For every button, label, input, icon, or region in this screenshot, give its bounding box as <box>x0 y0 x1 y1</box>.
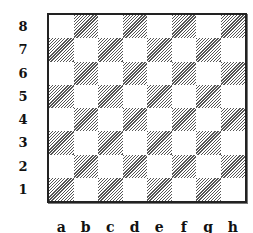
square-h1 <box>221 178 246 201</box>
square-c4 <box>98 108 123 131</box>
square-c6 <box>98 62 123 85</box>
file-label-e: e <box>147 218 172 233</box>
square-a3 <box>49 131 74 154</box>
square-c7 <box>98 38 123 61</box>
square-c3 <box>98 131 123 154</box>
square-b5 <box>74 85 99 108</box>
square-c5 <box>98 85 123 108</box>
rank-label-6: 6 <box>14 62 32 85</box>
square-g8 <box>196 15 221 38</box>
square-e8 <box>147 15 172 38</box>
square-b1 <box>74 178 99 201</box>
square-f5 <box>172 85 197 108</box>
rank-label-4: 4 <box>14 108 32 131</box>
square-e7 <box>147 38 172 61</box>
square-a6 <box>49 62 74 85</box>
square-a7 <box>49 38 74 61</box>
square-e6 <box>147 62 172 85</box>
square-h7 <box>221 38 246 61</box>
square-a2 <box>49 155 74 178</box>
square-f3 <box>172 131 197 154</box>
square-a1 <box>49 178 74 201</box>
square-f6 <box>172 62 197 85</box>
square-h2 <box>221 155 246 178</box>
rank-label-5: 5 <box>14 85 32 108</box>
square-d5 <box>123 85 148 108</box>
square-d6 <box>123 62 148 85</box>
square-b4 <box>74 108 99 131</box>
square-h8 <box>221 15 246 38</box>
file-label-g: g <box>196 218 221 233</box>
square-h6 <box>221 62 246 85</box>
square-g6 <box>196 62 221 85</box>
square-e2 <box>147 155 172 178</box>
square-b7 <box>74 38 99 61</box>
square-b2 <box>74 155 99 178</box>
file-label-d: d <box>123 218 148 233</box>
square-d8 <box>123 15 148 38</box>
square-h3 <box>221 131 246 154</box>
square-d2 <box>123 155 148 178</box>
rank-label-3: 3 <box>14 131 32 154</box>
file-labels: a b c d e f g h <box>49 218 245 233</box>
rank-labels: 8 7 6 5 4 3 2 1 <box>14 15 32 201</box>
square-e1 <box>147 178 172 201</box>
square-b3 <box>74 131 99 154</box>
square-g3 <box>196 131 221 154</box>
file-label-b: b <box>74 218 99 233</box>
square-c8 <box>98 15 123 38</box>
square-f7 <box>172 38 197 61</box>
rank-label-2: 2 <box>14 155 32 178</box>
square-f1 <box>172 178 197 201</box>
file-label-c: c <box>98 218 123 233</box>
rank-label-1: 1 <box>14 178 32 201</box>
square-d4 <box>123 108 148 131</box>
square-a8 <box>49 15 74 38</box>
square-g5 <box>196 85 221 108</box>
square-b6 <box>74 62 99 85</box>
file-label-a: a <box>49 218 74 233</box>
square-d7 <box>123 38 148 61</box>
file-label-h: h <box>221 218 246 233</box>
square-d1 <box>123 178 148 201</box>
square-h4 <box>221 108 246 131</box>
square-e5 <box>147 85 172 108</box>
square-g1 <box>196 178 221 201</box>
square-d3 <box>123 131 148 154</box>
square-g2 <box>196 155 221 178</box>
rank-label-8: 8 <box>14 15 32 38</box>
square-f4 <box>172 108 197 131</box>
file-label-f: f <box>172 218 197 233</box>
rank-label-7: 7 <box>14 38 32 61</box>
square-f2 <box>172 155 197 178</box>
square-a5 <box>49 85 74 108</box>
square-c1 <box>98 178 123 201</box>
square-g4 <box>196 108 221 131</box>
square-g7 <box>196 38 221 61</box>
square-e3 <box>147 131 172 154</box>
chessboard <box>47 13 247 203</box>
square-f8 <box>172 15 197 38</box>
square-h5 <box>221 85 246 108</box>
square-e4 <box>147 108 172 131</box>
square-a4 <box>49 108 74 131</box>
square-b8 <box>74 15 99 38</box>
square-c2 <box>98 155 123 178</box>
